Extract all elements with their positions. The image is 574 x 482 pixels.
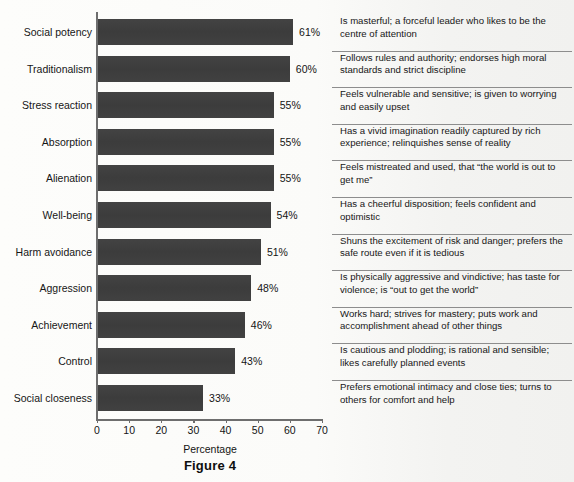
bar-value-label: 60% — [296, 56, 317, 82]
bar-track — [97, 202, 271, 228]
chart-row: Traditionalism60%Follows rules and autho… — [0, 51, 574, 87]
category-label: Well-being — [43, 197, 92, 233]
category-label: Alienation — [46, 160, 92, 196]
bar — [97, 56, 290, 82]
chart-row: Well-being54%Has a cheerful disposition;… — [0, 197, 574, 233]
category-label: Control — [58, 343, 92, 379]
x-axis-tick-label: 60 — [284, 424, 296, 436]
category-label: Achievement — [31, 307, 92, 343]
x-axis-tick — [161, 419, 162, 423]
bar-value-label: 43% — [241, 348, 262, 374]
chart-row: Alienation55%Feels mistreated and used, … — [0, 160, 574, 196]
x-axis-tick — [290, 419, 291, 423]
trait-description: Shuns the excitement of risk and danger;… — [340, 235, 566, 260]
bar-track — [97, 165, 274, 191]
chart-row: Aggression48%Is physically aggressive an… — [0, 270, 574, 306]
category-label: Absorption — [42, 124, 92, 160]
x-axis-tick-label: 10 — [123, 424, 135, 436]
category-label: Stress reaction — [22, 87, 92, 123]
category-label: Traditionalism — [27, 51, 92, 87]
trait-description: Is cautious and plodding; is rational an… — [340, 344, 566, 369]
bar-track — [97, 239, 261, 265]
bar-value-label: 51% — [267, 239, 288, 265]
category-label: Social potency — [24, 14, 92, 50]
bar-track — [97, 348, 235, 374]
bar-value-label: 33% — [209, 385, 230, 411]
figure-caption: Figure 4 — [0, 458, 420, 473]
category-label: Aggression — [39, 270, 92, 306]
x-axis-tick-label: 50 — [252, 424, 264, 436]
bar-value-label: 55% — [280, 129, 301, 155]
chart-row: Social potency61%Is masterful; a forcefu… — [0, 14, 574, 50]
bar-value-label: 46% — [251, 312, 272, 338]
bar-value-label: 55% — [280, 92, 301, 118]
bar-track — [97, 312, 245, 338]
trait-description: Feels mistreated and used, that “the wor… — [340, 161, 566, 186]
trait-description: Feels vulnerable and sensitive; is given… — [340, 88, 566, 113]
chart-rows: Social potency61%Is masterful; a forcefu… — [0, 0, 574, 418]
x-axis-tick-label: 0 — [94, 424, 100, 436]
x-axis-tick-label: 20 — [155, 424, 167, 436]
x-axis-tick-label: 70 — [316, 424, 328, 436]
trait-description: Is physically aggressive and vindictive;… — [340, 271, 566, 296]
x-axis-tick-label: 40 — [220, 424, 232, 436]
bar-track — [97, 92, 274, 118]
chart-row: Harm avoidance51%Shuns the excitement of… — [0, 234, 574, 270]
chart-row: Stress reaction55%Feels vulnerable and s… — [0, 87, 574, 123]
bar — [97, 202, 271, 228]
category-label: Social closeness — [14, 380, 92, 416]
bar-track — [97, 19, 293, 45]
bar-track — [97, 56, 290, 82]
bar — [97, 92, 274, 118]
bar — [97, 385, 203, 411]
chart-row: Control43%Is cautious and plodding; is r… — [0, 343, 574, 379]
bar — [97, 165, 274, 191]
chart-row: Social closeness33%Prefers emotional int… — [0, 380, 574, 416]
x-axis-tick — [97, 419, 98, 423]
category-label: Harm avoidance — [16, 234, 92, 270]
x-axis-tick — [258, 419, 259, 423]
x-axis-tick — [322, 419, 323, 423]
bar-track — [97, 385, 203, 411]
trait-description: Prefers emotional intimacy and close tie… — [340, 381, 566, 406]
trait-description: Works hard; strives for mastery; puts wo… — [340, 308, 566, 333]
bar-track — [97, 275, 251, 301]
x-axis-tick — [226, 419, 227, 423]
figure-container: Social potency61%Is masterful; a forcefu… — [0, 0, 574, 482]
x-axis-label: Percentage — [0, 443, 420, 455]
x-axis-tick — [193, 419, 194, 423]
bar-value-label: 55% — [280, 165, 301, 191]
trait-description: Is masterful; a forceful leader who like… — [340, 15, 566, 40]
bar — [97, 312, 245, 338]
trait-description: Follows rules and authority; endorses hi… — [340, 52, 566, 77]
bar — [97, 348, 235, 374]
bar — [97, 275, 251, 301]
bar-value-label: 48% — [257, 275, 278, 301]
trait-description: Has a cheerful disposition; feels confid… — [340, 198, 566, 223]
x-axis-tick-label: 30 — [188, 424, 200, 436]
chart-row: Achievement46%Works hard; strives for ma… — [0, 307, 574, 343]
chart-row: Absorption55%Has a vivid imagination rea… — [0, 124, 574, 160]
bar-track — [97, 129, 274, 155]
bar — [97, 129, 274, 155]
y-axis-line — [96, 12, 98, 420]
trait-description: Has a vivid imagination readily captured… — [340, 125, 566, 150]
bar-value-label: 54% — [277, 202, 298, 228]
bar-value-label: 61% — [299, 19, 320, 45]
bar — [97, 19, 293, 45]
bar — [97, 239, 261, 265]
x-axis-tick — [129, 419, 130, 423]
